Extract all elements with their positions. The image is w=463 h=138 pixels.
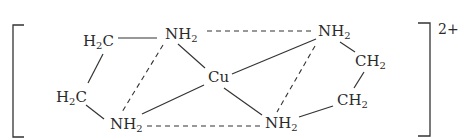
- ion-charge: 2+: [438, 22, 459, 36]
- bond-n3-cu: [232, 39, 316, 74]
- atom-label-nh2-top-left: NH2: [165, 27, 198, 42]
- atom-label-ch2-upper-right: CH2: [355, 54, 386, 69]
- atom-label-h2c-top: H2C: [83, 34, 114, 49]
- bond-c4-n4: [299, 106, 333, 117]
- atom-label-nh2-bottom-right: NH2: [265, 116, 298, 131]
- bond-c1-c2: [88, 54, 103, 83]
- dashed-n3-n4: [277, 46, 315, 112]
- bond-n1-cu: [178, 44, 205, 68]
- bond-n4-cu: [224, 88, 262, 115]
- complex-ion-diagram: H2C NH2 H2C NH2 Cu NH2 CH2 CH2 NH2 2+: [0, 0, 463, 138]
- atom-label-cu: Cu: [208, 70, 229, 85]
- bond-lines: [0, 0, 463, 138]
- atom-label-nh2-bottom-left: NH2: [110, 117, 143, 132]
- bond-n2-cu: [142, 85, 204, 114]
- atom-label-nh2-top-right: NH2: [318, 24, 351, 39]
- bond-c2-n2: [86, 105, 104, 119]
- left-bracket: [13, 25, 24, 137]
- right-bracket: [418, 23, 430, 136]
- atom-label-h2c-bottom: H2C: [56, 90, 87, 105]
- bond-c3-c4: [354, 72, 364, 88]
- bond-n3-c3: [340, 42, 355, 52]
- atom-label-ch2-lower-right: CH2: [337, 93, 368, 108]
- dashed-n1-n2: [122, 45, 163, 112]
